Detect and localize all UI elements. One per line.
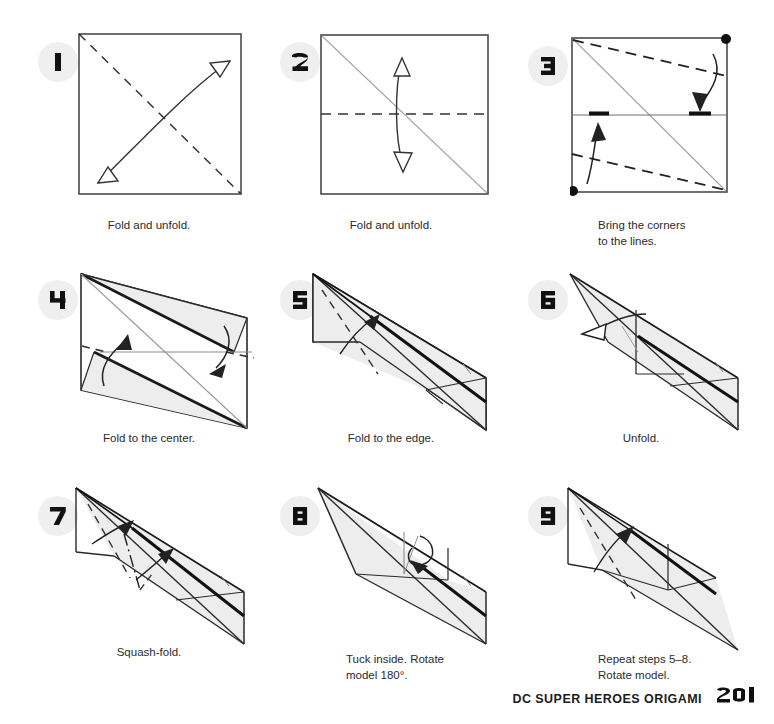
page-footer: DC SUPER HEROES ORIGAMI [0, 686, 774, 724]
step-1-caption: Fold and unfold. [20, 218, 278, 234]
step-9-caption: Repeat steps 5–8. Rotate model. [598, 652, 770, 683]
step-4-diagram [76, 268, 256, 440]
footer-inner: DC SUPER HEROES ORIGAMI [512, 686, 758, 706]
step-6-caption: Unfold. [512, 431, 770, 447]
step-1-diagram [78, 33, 250, 205]
step-number-badge-2 [280, 42, 320, 82]
step-number-badge-1 [38, 42, 78, 82]
step-5-diagram [308, 268, 498, 440]
step-number-3-glyph [535, 53, 561, 79]
step-7-caption: Squash-fold. [20, 645, 278, 661]
step-8-caption: Tuck inside. Rotate model 180°. [346, 652, 522, 683]
book-title: DC SUPER HEROES ORIGAMI [512, 692, 702, 706]
step-number-6-glyph [535, 287, 561, 313]
step-number-4-glyph [45, 287, 71, 313]
step-6-diagram [560, 268, 750, 440]
step-number-badge-3 [528, 46, 568, 86]
step-number-1-glyph [45, 49, 71, 75]
origami-instruction-page: Fold and unfold. [0, 0, 774, 724]
step-number-2-glyph [287, 49, 313, 75]
step-number-badge-4 [38, 280, 78, 320]
step-3-caption: Bring the corners to the lines. [598, 218, 770, 249]
step-9-diagram [558, 482, 748, 662]
step-2-caption: Fold and unfold. [262, 218, 520, 234]
step-4-caption: Fold to the center. [20, 431, 278, 447]
page-number-glyph [716, 686, 758, 703]
steps-grid: Fold and unfold. [0, 0, 774, 690]
step-3-diagram [570, 32, 746, 208]
step-5-caption: Fold to the edge. [262, 431, 520, 447]
step-2-diagram [320, 34, 492, 206]
page-number [716, 686, 758, 703]
step-7-diagram [66, 482, 256, 654]
step-8-diagram [308, 482, 498, 662]
